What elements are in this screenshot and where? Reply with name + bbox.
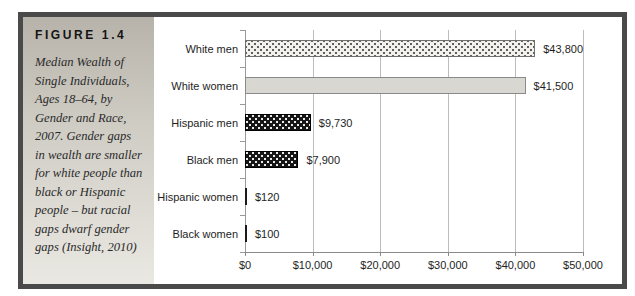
x-axis-tick (313, 252, 314, 256)
value-label: $100 (255, 228, 279, 240)
y-axis-tick (240, 252, 245, 253)
value-label: $43,800 (543, 43, 583, 55)
bar-white-women (245, 77, 526, 94)
x-axis-tick-label: $40,000 (496, 259, 536, 271)
y-axis-tick (240, 67, 245, 68)
bar-row: Hispanic men$9,730 (245, 104, 583, 141)
bar-black-women (245, 225, 247, 242)
y-axis-tick (240, 104, 245, 105)
value-label: $41,500 (534, 80, 574, 92)
x-axis-tick-label: $50,000 (563, 259, 603, 271)
x-axis-tick (448, 252, 449, 256)
bar-row: Hispanic women$120 (245, 178, 583, 215)
y-axis-tick (240, 178, 245, 179)
value-label: $7,900 (306, 154, 340, 166)
value-label: $120 (255, 191, 279, 203)
x-axis-tick-label: $10,000 (293, 259, 333, 271)
bar-row: White women$41,500 (245, 67, 583, 104)
bar-hispanic-women (245, 188, 247, 205)
x-axis-tick-labels: $0$10,000$20,000$30,000$40,000$50,000 (245, 259, 583, 275)
gridline (583, 30, 584, 252)
category-label: White women (148, 80, 238, 92)
bar-hispanic-men (245, 114, 311, 131)
x-axis-tick (380, 252, 381, 256)
bar-row: Black men$7,900 (245, 141, 583, 178)
y-axis-tick (240, 215, 245, 216)
category-label: Hispanic men (148, 117, 238, 129)
figure-number-label: FIGURE 1.4 (35, 28, 144, 42)
category-label: Black women (148, 228, 238, 240)
category-label: Hispanic women (148, 191, 238, 203)
bar-rows: White men$43,800White women$41,500Hispan… (245, 30, 583, 252)
bar-black-men (245, 151, 298, 168)
bar-row: Black women$100 (245, 215, 583, 252)
y-axis-tick (240, 141, 245, 142)
bar-white-men (245, 40, 535, 57)
y-axis-tick (240, 30, 245, 31)
x-axis-tick (583, 252, 584, 256)
x-axis-tick-label: $30,000 (428, 259, 468, 271)
category-label: Black men (148, 154, 238, 166)
bar-chart: White men$43,800White women$41,500Hispan… (154, 17, 622, 284)
plot-area: White men$43,800White women$41,500Hispan… (245, 30, 583, 253)
bar-row: White men$43,800 (245, 30, 583, 67)
figure-caption-sidebar: FIGURE 1.4 Median Wealth of Single Indiv… (23, 17, 154, 284)
x-axis-tick (245, 252, 246, 256)
x-axis-tick (515, 252, 516, 256)
value-label: $9,730 (319, 117, 353, 129)
figure-frame: FIGURE 1.4 Median Wealth of Single Indiv… (18, 12, 627, 289)
x-axis-tick-label: $20,000 (360, 259, 400, 271)
x-axis-tick-label: $0 (239, 259, 251, 271)
figure-caption-text: Median Wealth of Single Individuals, Age… (35, 53, 144, 257)
category-label: White men (148, 43, 238, 55)
